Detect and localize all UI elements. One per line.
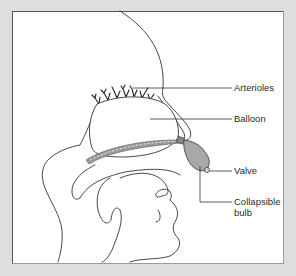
tongue-outline	[97, 178, 121, 262]
label-balloon: Balloon	[234, 113, 266, 124]
nasal-cavity-outline	[42, 110, 97, 262]
oral-cavity-outline	[120, 173, 171, 200]
chin-outline	[156, 210, 160, 222]
valve	[204, 167, 209, 172]
label-collapsible-bulb-line1: Collapsible	[234, 196, 280, 207]
label-valve: Valve	[234, 165, 257, 176]
lip-outline	[130, 200, 180, 262]
label-collapsible-bulb-line2: bulb	[234, 207, 252, 218]
label-arterioles: Arterioles	[234, 82, 274, 93]
nasal-balloon-diagram	[0, 0, 296, 276]
collapsible-bulb	[184, 140, 210, 171]
